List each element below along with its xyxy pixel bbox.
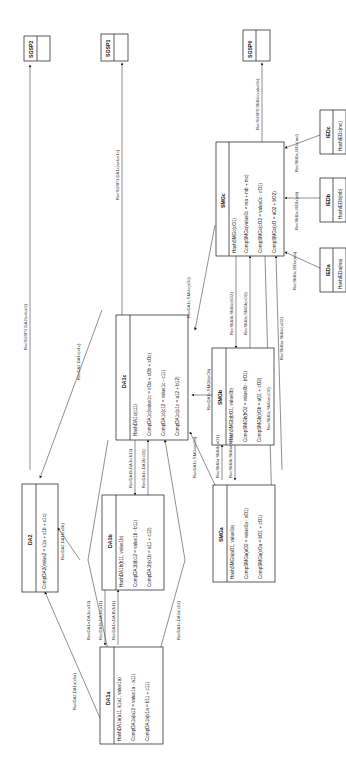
node-smg-b: SMGb HashSMGb(bO1, value0b) CompSMGb(bO2… <box>212 348 274 445</box>
label-smgc-ieda: RecSMGc,IEDa(ma) <box>292 251 297 290</box>
svg-text:HashIEDb(mb): HashIEDb(mb) <box>338 188 343 219</box>
label-da1a-da1b: RecDA1a,DA1b(b11) <box>111 600 116 640</box>
svg-text:CompSMGa(aO2 = value0a - aO1): CompSMGa(aO2 = value0a - aO1) <box>244 507 249 579</box>
label-sgsp0-smgc: RecSGSP0,SMGc(value0c) <box>255 78 260 130</box>
node-ied-a: IEDa HashIEDa(ma) <box>320 248 346 292</box>
node-smg-c: SMGc HashSMGc(cO1) CompSMGc(value0c = ma… <box>216 142 284 256</box>
svg-text:HashDA1a(a11, k1a1, value1a): HashDA1a(a11, k1a1, value1a) <box>117 677 122 741</box>
svg-text:CompDA1c(value1c = xOa + xOb +: CompDA1c(value1c = xOa + xOb + xOc) <box>147 352 152 436</box>
node-da1-a: DA1a HashDA1a(a11, k1a1, value1a) CompDA… <box>100 647 163 744</box>
svg-text:SMGc: SMGc <box>220 193 226 208</box>
label-da1c-smgb: RecDA1c,SMGb(xOb) <box>206 368 211 410</box>
svg-text:IEDc: IEDc <box>325 126 331 138</box>
label-smgc-iedc: RecSMGc,IEDc(mc) <box>294 134 299 172</box>
svg-text:IEDa: IEDa <box>325 264 331 276</box>
node-sgsp0: SGSP0 <box>243 30 270 61</box>
svg-text:HashSMGc(cO1): HashSMGc(cO1) <box>232 218 237 253</box>
label-da1c-smga: RecDA1c,SMGa(xOa) <box>192 436 197 478</box>
svg-text:DA1b: DA1b <box>107 534 113 548</box>
svg-text:CompDA1a(a12 = value1a - a11): CompDA1a(a12 = value1a - a11) <box>131 673 136 741</box>
label-da1c-da1b: RecDA1c,DA1b(c11) <box>141 449 146 488</box>
svg-text:DA1c: DA1c <box>121 375 127 388</box>
node-da2: DA2 CompDA2(value2 = x1a + x1b + x1c) <box>22 484 58 592</box>
svg-text:SGSP0: SGSP0 <box>247 41 253 58</box>
svg-text:CompDA1b(x1b = a11 + c12): CompDA1b(x1b = a11 + c12) <box>147 527 152 587</box>
node-ied-c: IEDc HashIEDc(mc) <box>320 110 346 154</box>
node-ied-b: IEDb HashIEDb(mb) <box>320 178 346 222</box>
edge-da1c-da2 <box>40 310 102 478</box>
label-da2-da1c: RecDA2,DA1c(x1c) <box>76 343 81 380</box>
label-smga-smgb: RecSMGa,SMGb(aO1) <box>215 434 220 478</box>
svg-text:HashSMGa(aO1, value0a): HashSMGa(aO1, value0a) <box>230 524 235 579</box>
node-smg-a: SMGa HashSMGa(aO1, value0a) CompSMGa(aO2… <box>213 485 275 582</box>
svg-text:CompSMGc(xO = aO2 + bO2): CompSMGc(xO = aO2 + bO2) <box>272 191 277 253</box>
svg-text:IEDb: IEDb <box>325 194 331 206</box>
svg-text:CompSMGb(xOb = aO1 + cO2): CompSMGb(xOb = aO1 + cO2) <box>257 377 262 442</box>
label-smgb-smgc: RecSMGb,SMGc(bO2) <box>229 292 234 335</box>
svg-text:SGSP1: SGSP1 <box>105 40 111 57</box>
label-smga-smgc: RecSMGa,SMGc(aO2) <box>279 317 284 360</box>
svg-text:CompSMGb(bO2 = value0b - bO1): CompSMGb(bO2 = value0b - bO1) <box>243 370 248 442</box>
label-da2-da1a: RecDA2,DA1a(x1a) <box>72 673 77 710</box>
svg-text:CompDA1c(c12 = value1c - c11): CompDA1c(c12 = value1c - c11) <box>161 369 166 436</box>
label-sgsp1-da1c: RecSGSP1,DA1c(value1c) <box>115 149 120 200</box>
svg-text:CompSMGc(value0c = ma + mb + m: CompSMGc(value0c = ma + mb + mc) <box>244 174 249 253</box>
label-da1b-da1c: RecDA1b,DA1c(b12) <box>128 448 133 488</box>
node-da1-c: DA1c HashDA1c(c11) CompDA1c(value1c = xO… <box>116 315 188 440</box>
node-sgsp2: SGSP2 <box>24 36 50 61</box>
label-da1b-da1a: RecDA1b,DA1a(a11) <box>98 600 103 640</box>
svg-text:HashDA1b(b11, value1b): HashDA1b(b11, value1b) <box>119 535 124 587</box>
label-da1a-da1c: RecDA1a,DA1c(a12) <box>86 600 91 640</box>
label-smgb-smga: RecSMGb,SMGa(bO1) <box>228 434 233 478</box>
protocol-diagram: SGSP2 SGSP1 SGSP0 SMGc HashSMGc(cO1) Com… <box>0 0 346 771</box>
label-da2-da1b: RecDA2,DA1b(x1b) <box>60 523 65 560</box>
label-da1c-da1a: RecDA1c,DA1a(c12) <box>176 601 181 640</box>
label-da1c-smgc: RecDA1c,SMGc(xOc) <box>186 277 191 318</box>
svg-text:HashSMGb(bO1, value0b): HashSMGb(bO1, value0b) <box>229 387 234 442</box>
svg-text:CompDA1b(b12 = value1b - b11): CompDA1b(b12 = value1b - b11) <box>133 519 138 587</box>
label-smgc-smgb: RecSMGc,SMGb(cO1) <box>243 292 248 335</box>
node-da1-b: DA1b HashDA1b(b11, value1b) CompDA1b(b12… <box>102 495 164 590</box>
svg-text:SMGb: SMGb <box>217 390 223 405</box>
svg-text:CompDA1c(x1c = a12 + b12): CompDA1c(x1c = a12 + b12) <box>175 376 180 436</box>
edge-smgc-da1c <box>195 225 215 330</box>
svg-text:SGSP2: SGSP2 <box>28 41 34 58</box>
svg-text:CompSMGc(cO2 = value0c - cO1): CompSMGc(cO2 = value0c - cO1) <box>258 182 263 253</box>
svg-text:DA2: DA2 <box>27 535 33 545</box>
svg-text:SMGa: SMGa <box>218 527 224 542</box>
node-sgsp1: SGSP1 <box>101 34 128 61</box>
label-smgc-iedb: RecSMGc,IEDb(mb) <box>294 191 299 230</box>
edge-iedc-smgc <box>285 135 320 148</box>
svg-text:CompDA1a(x1a = b11 + c11): CompDA1a(x1a = b11 + c11) <box>145 681 150 741</box>
edge-ieda-smgc <box>285 252 320 268</box>
svg-text:HashIEDa(ma): HashIEDa(ma) <box>338 258 343 289</box>
label-sgsp2-da2: RecSGSP2,DA2(value2) <box>23 304 28 350</box>
label-smgc-smga: RecSMGc,SMGa(cO2) <box>266 387 271 430</box>
edge-smga-smgc <box>276 256 282 470</box>
svg-text:DA1a: DA1a <box>105 692 111 705</box>
svg-text:HashIEDc(mc): HashIEDc(mc) <box>338 121 343 151</box>
svg-text:CompDA2(value2 = x1a + x1b + x: CompDA2(value2 = x1a + x1b + x1c) <box>42 513 47 589</box>
svg-text:HashDA1c(c11): HashDA1c(c11) <box>133 403 138 436</box>
svg-text:CompSMGa(xOa = bO1 + cO1): CompSMGa(xOa = bO1 + cO1) <box>258 514 263 579</box>
